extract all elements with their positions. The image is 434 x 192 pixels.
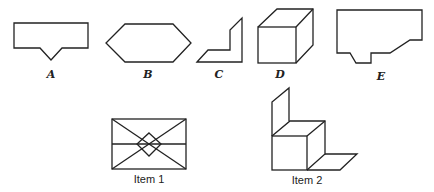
shape-d-cube <box>258 9 313 63</box>
option-c: C <box>197 18 242 81</box>
label-d: D <box>274 68 285 81</box>
figure-canvas: A B C D E Item 1 <box>0 0 434 192</box>
label-c: C <box>215 68 224 81</box>
option-a: A <box>14 23 88 81</box>
shape-b <box>106 24 191 62</box>
option-b: B <box>106 24 191 81</box>
item-2: Item 2 <box>272 88 357 186</box>
shape-a <box>14 23 88 60</box>
label-e: E <box>376 70 386 83</box>
shape-c <box>197 18 242 62</box>
shape-e <box>337 10 422 63</box>
label-b: B <box>142 68 152 81</box>
item-1-envelope <box>112 119 186 169</box>
item-1: Item 1 <box>112 119 186 185</box>
label-a: A <box>46 68 56 81</box>
option-e: E <box>337 10 422 83</box>
label-item-2: Item 2 <box>292 174 323 186</box>
item-2-cube-with-panels <box>272 88 357 170</box>
option-d: D <box>258 9 313 81</box>
label-item-1: Item 1 <box>134 173 165 185</box>
